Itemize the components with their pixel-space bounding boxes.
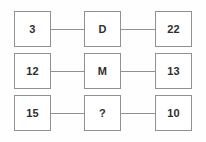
puzzle-row: 15 ? 10 xyxy=(0,95,206,133)
connector-row2-middle-right xyxy=(121,71,155,72)
cell-row2-left[interactable]: 12 xyxy=(14,53,51,89)
puzzle-diagram: 3 D 22 12 M 13 15 ? 10 xyxy=(0,0,206,142)
puzzle-row: 12 M 13 xyxy=(0,53,206,91)
cell-row1-right[interactable]: 22 xyxy=(155,11,192,47)
cell-row2-right[interactable]: 13 xyxy=(155,53,192,89)
connector-row3-left-middle xyxy=(51,113,84,114)
connector-row1-left-middle xyxy=(51,29,84,30)
cell-row1-middle[interactable]: D xyxy=(84,11,121,47)
cell-row3-right[interactable]: 10 xyxy=(155,95,192,131)
cell-row3-left[interactable]: 15 xyxy=(14,95,51,131)
connector-row2-left-middle xyxy=(51,71,84,72)
connector-row3-middle-right xyxy=(121,113,155,114)
cell-row1-left[interactable]: 3 xyxy=(14,11,51,47)
cell-row3-middle-unknown[interactable]: ? xyxy=(84,95,121,131)
puzzle-row: 3 D 22 xyxy=(0,11,206,49)
cell-row2-middle[interactable]: M xyxy=(84,53,121,89)
connector-row1-middle-right xyxy=(121,29,155,30)
